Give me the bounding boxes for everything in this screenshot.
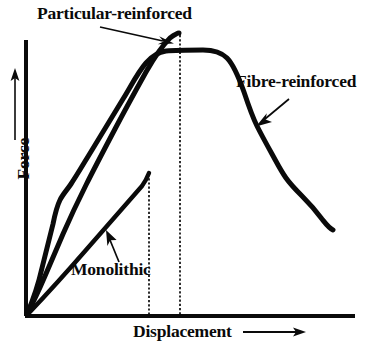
x-axis-title: Displacement [133,323,232,341]
annotation-arrow-particular-icon [100,27,174,44]
chart-canvas [0,0,382,352]
annotation-label-monolithic: Monolithic [71,261,151,279]
x-axis-arrow-icon [243,327,306,336]
y-axis-title: Force [15,127,33,191]
annotation-arrow-fibre-icon [256,99,289,127]
annotation-arrow-monolithic-icon [106,230,119,262]
chart-figure: Particular-reinforced Fibre-reinforced M… [0,0,382,352]
annotation-label-fibre-reinforced: Fibre-reinforced [236,73,356,91]
annotation-label-particular-reinforced: Particular-reinforced [37,5,192,23]
